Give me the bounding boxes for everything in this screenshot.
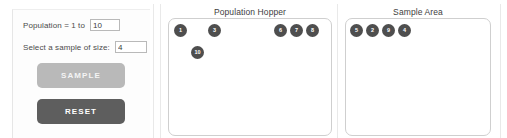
population-hopper-panel: Population Hopper 1367810	[168, 6, 332, 136]
sample-size-field-row: Select a sample of size:	[23, 41, 147, 53]
sampling-simulator-app: Population = 1 to Select a sample of siz…	[0, 0, 507, 138]
panel-divider-right	[500, 4, 501, 138]
token-hopper-3[interactable]: 3	[208, 24, 221, 37]
token-sample_area-9[interactable]: 9	[382, 24, 395, 37]
token-sample_area-5[interactable]: 5	[350, 24, 363, 37]
population-field-row: Population = 1 to	[23, 19, 120, 31]
sample-area-panel: Sample Area 5294	[345, 6, 491, 136]
population-hopper-title: Population Hopper	[168, 6, 332, 18]
sample-size-input[interactable]	[115, 41, 147, 53]
sample-area-title: Sample Area	[345, 6, 491, 18]
population-max-input[interactable]	[90, 19, 120, 31]
token-hopper-10[interactable]: 10	[191, 46, 204, 59]
panel-divider-left	[153, 4, 154, 138]
reset-button[interactable]: RESET	[37, 99, 125, 124]
sample-size-label: Select a sample of size:	[23, 43, 110, 52]
controls-panel: Population = 1 to Select a sample of siz…	[12, 9, 150, 138]
token-hopper-8[interactable]: 8	[306, 24, 319, 37]
panel-divider-middle	[337, 4, 338, 138]
token-sample_area-2[interactable]: 2	[366, 24, 379, 37]
panel-divider-hopper	[160, 4, 161, 138]
sample-area-box[interactable]: 5294	[345, 18, 491, 136]
sample-button[interactable]: SAMPLE	[37, 63, 125, 88]
token-hopper-6[interactable]: 6	[274, 24, 287, 37]
token-hopper-1[interactable]: 1	[174, 24, 187, 37]
token-hopper-7[interactable]: 7	[290, 24, 303, 37]
token-sample_area-4[interactable]: 4	[398, 24, 411, 37]
population-hopper-box[interactable]: 1367810	[168, 18, 332, 136]
population-label: Population = 1 to	[23, 21, 85, 30]
